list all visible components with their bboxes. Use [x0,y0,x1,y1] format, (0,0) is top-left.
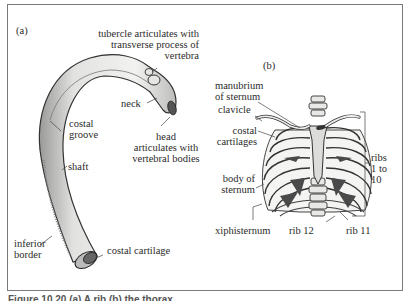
label-costal-groove: costal groove [69,118,98,140]
label-rib-12: rib 12 [289,225,314,236]
figure-caption: Figure 10.20 (a) A rib (b) the thorax [8,293,173,301]
label-inferior-border: inferior border [14,238,46,260]
label-body-of-sternum: body of sternum [214,173,255,195]
label-neck: neck [121,98,141,109]
label-rib-11: rib 11 [346,225,370,236]
panel-label-b: (b) [263,60,275,71]
thorax-drawing [257,96,372,216]
label-head: head articulates with vertebral bodies [128,131,204,164]
label-manubrium: manubrium of sternum [215,80,263,102]
label-xiphisternum: xiphisternum [215,225,270,236]
panel-label-a: (a) [16,25,28,36]
label-clavicle: clavicle [218,104,251,115]
label-costal-cartilage: costal cartilage [107,245,170,256]
label-tubercle: tubercle articulates with transverse pro… [96,28,199,61]
label-costal-cartilages: costal cartilages [210,125,257,147]
figure-artwork [0,0,411,301]
label-ribs-1-to-10: ribs 1 to 10 [371,152,387,185]
label-shaft: shaft [68,161,88,172]
